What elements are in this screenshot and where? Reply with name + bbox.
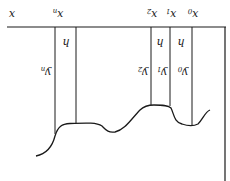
label-x1: x1 <box>166 7 177 21</box>
label-h-1: h <box>177 36 184 49</box>
label-x0: x0 <box>187 7 198 21</box>
label-y2: y2 <box>137 65 149 79</box>
svg-text:x2: x2 <box>146 7 157 21</box>
integration-diagram: x xn x2 x1 x0 h h h yn <box>0 0 230 181</box>
diagram-canvas: x xn x2 x1 x0 h h h yn <box>0 0 230 181</box>
label-y1: y1 <box>157 65 169 79</box>
svg-text:h: h <box>177 36 184 49</box>
function-curve <box>36 105 210 156</box>
svg-text:h: h <box>156 36 163 49</box>
label-h-2: h <box>156 36 163 49</box>
label-h-n: h <box>62 36 69 49</box>
label-y0: y0 <box>177 65 189 79</box>
svg-text:y1: y1 <box>157 65 169 79</box>
axis-label-x: x <box>8 8 15 21</box>
label-x2: x2 <box>146 7 157 21</box>
svg-text:x0: x0 <box>187 7 198 21</box>
label-yn: yn <box>40 65 52 79</box>
label-xn: xn <box>52 7 63 21</box>
svg-text:xn: xn <box>52 7 63 21</box>
svg-text:yn: yn <box>40 65 52 79</box>
svg-text:y2: y2 <box>137 65 149 79</box>
svg-text:y0: y0 <box>177 65 189 79</box>
svg-text:x1: x1 <box>166 7 177 21</box>
svg-text:x: x <box>8 8 15 21</box>
svg-text:h: h <box>62 36 69 49</box>
